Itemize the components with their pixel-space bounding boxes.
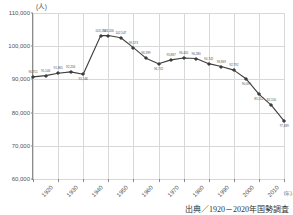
data-point-label: 95,887 [166,53,175,57]
x-axis-tick-mark [108,179,109,182]
x-axis-tick-mark [209,179,210,182]
x-axis-tick-label: 1920 [40,184,54,198]
x-axis-tick-mark [284,179,285,182]
x-axis-unit-label: (年) [284,189,292,196]
data-point-label: 96,280 [192,52,201,56]
data-point-marker [43,73,47,77]
y-axis-tick-label: 100,000 [8,43,30,49]
x-axis-tick-label: 1930 [66,184,80,198]
data-point-label: 103,206 [103,29,114,33]
x-axis-tick-label: 1980 [191,184,205,198]
x-axis-tick-mark [33,179,34,182]
x-axis-tick-mark [58,179,59,182]
y-axis-unit-label: (人) [36,1,47,11]
data-point-label: 92,256 [66,65,75,69]
x-axis-tick-mark [184,179,185,182]
x-axis-tick-mark [133,179,134,182]
plot-area: 110,000100,00090,00080,00070,00060,000 1… [32,13,284,180]
data-point-label: 96,445 [179,51,188,55]
data-point-label: 91,146 [41,69,50,73]
data-point-label: 85,552 [254,97,263,101]
x-axis-tick-label: 1940 [91,184,105,198]
data-point-label: 99,573 [129,41,138,45]
data-point-label: 96,399 [141,51,150,55]
x-axis-tick-mark [234,179,235,182]
gridline-vertical [284,13,285,179]
data-point-label: 91,865 [54,66,63,70]
x-axis-tick-label: 1960 [141,184,155,198]
x-axis-tick-label: 2010 [266,184,280,198]
data-point-label: 93,869 [217,60,226,64]
x-axis-tick-label: 2000 [241,184,255,198]
y-axis-tick-label: 70,000 [12,143,30,149]
data-point-label: 92,792 [229,63,238,67]
series-line [33,13,284,179]
source-caption: 出典／1920－2020年国勢調査 [185,203,289,214]
population-line-chart: (人) 110,000100,00090,00080,00070,00060,0… [0,0,293,215]
data-point-label: 90,751 [28,70,37,74]
y-axis-tick-label: 110,000 [9,10,30,16]
y-axis-tick-label: 90,000 [12,76,30,82]
x-axis-tick-label: 1990 [216,184,230,198]
data-point-marker [282,119,286,123]
x-axis-tick-mark [259,179,260,182]
data-point-label: 91,546 [79,77,88,81]
y-axis-tick-label: 60,000 [12,176,30,182]
data-point-label: 102,547 [115,31,126,35]
data-point-label: 77,489 [279,124,288,128]
data-point-label: 94,732 [154,67,163,71]
x-axis-tick-mark [83,179,84,182]
y-axis-tick-label: 80,000 [12,110,30,116]
x-axis-tick-mark [159,179,160,182]
x-axis-tick-label: 1950 [116,184,130,198]
x-axis-tick-label: 1970 [166,184,180,198]
data-point-label: 82,150 [267,98,276,102]
data-point-label: 90,099 [242,82,251,86]
data-point-label: 94,742 [204,57,213,61]
